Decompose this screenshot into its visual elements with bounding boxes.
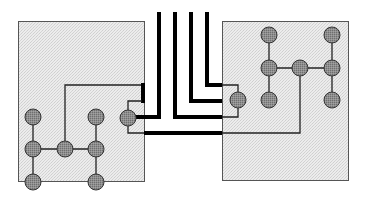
node-L-c3	[88, 174, 104, 190]
diagram-canvas	[0, 0, 366, 212]
node-L-a2	[25, 141, 41, 157]
node-R-a1	[261, 27, 277, 43]
node-R-c1	[324, 27, 340, 43]
node-L-port	[120, 110, 136, 126]
node-L-a3	[25, 174, 41, 190]
node-R-a2	[261, 60, 277, 76]
node-R-port	[230, 92, 246, 108]
node-L-a1	[25, 109, 41, 125]
node-L-b	[57, 141, 73, 157]
bus-4	[207, 12, 222, 85]
node-L-c1	[88, 109, 104, 125]
node-R-a3	[261, 92, 277, 108]
node-R-c2	[324, 60, 340, 76]
node-L-c2	[88, 141, 104, 157]
node-R-c3	[324, 92, 340, 108]
buses	[136, 12, 222, 133]
left-edge-stub	[141, 83, 145, 103]
node-R-b	[292, 60, 308, 76]
left-module-box	[19, 22, 145, 182]
